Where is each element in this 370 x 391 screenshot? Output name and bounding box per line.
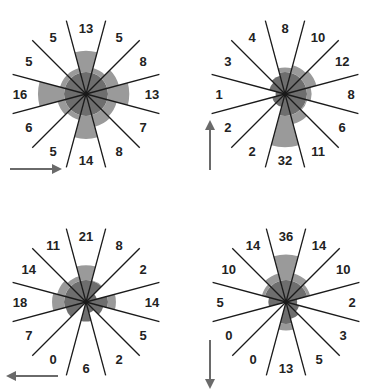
sector-count-label: 4 bbox=[248, 30, 256, 45]
sector-count-label: 8 bbox=[140, 54, 147, 69]
sector-count-label: 8 bbox=[115, 144, 122, 159]
sector-count-label: 8 bbox=[281, 21, 288, 36]
sector-count-label: 0 bbox=[249, 352, 256, 367]
sector-count-label: 36 bbox=[279, 229, 293, 244]
sector-count-label: 11 bbox=[46, 238, 60, 253]
sector-count-label: 3 bbox=[224, 54, 231, 69]
sector-count-label: 13 bbox=[145, 87, 159, 102]
sector-wedge-outer bbox=[279, 323, 294, 330]
sector-count-label: 2 bbox=[224, 120, 231, 135]
sector-count-label: 11 bbox=[311, 144, 325, 159]
sector-count-label: 0 bbox=[49, 352, 56, 367]
sector-boundary-line bbox=[32, 302, 86, 356]
sector-count-label: 14 bbox=[312, 238, 327, 253]
sector-count-label: 6 bbox=[339, 120, 346, 135]
sector-count-label: 10 bbox=[311, 30, 325, 45]
sector-count-label: 5 bbox=[315, 352, 322, 367]
sector-count-label: 10 bbox=[222, 262, 236, 277]
sector-count-label: 10 bbox=[336, 262, 350, 277]
rose-diagrams-figure: 1358137814561655810128611322213421821452… bbox=[0, 0, 370, 391]
sector-count-label: 14 bbox=[246, 238, 261, 253]
sector-count-label: 7 bbox=[25, 328, 32, 343]
sector-boundary-line bbox=[232, 302, 286, 356]
sector-count-label: 5 bbox=[49, 144, 56, 159]
sector-count-label: 2 bbox=[115, 352, 122, 367]
sector-count-label: 16 bbox=[13, 87, 27, 102]
sector-count-label: 5 bbox=[49, 30, 56, 45]
sector-wedge-outer bbox=[306, 87, 311, 101]
sector-count-label: 18 bbox=[13, 295, 27, 310]
sector-count-label: 1 bbox=[215, 87, 222, 102]
sector-count-label: 3 bbox=[340, 328, 347, 343]
rose-panel-bottom-right: 361410235130051014 bbox=[213, 229, 360, 376]
sector-count-label: 5 bbox=[216, 295, 223, 310]
sector-count-label: 14 bbox=[145, 295, 160, 310]
rose-panel-top-left: 1358137814561655 bbox=[13, 21, 160, 168]
sector-count-label: 6 bbox=[82, 361, 89, 376]
rose-panel-top-right: 8101286113222134 bbox=[212, 21, 359, 168]
sector-count-label: 2 bbox=[248, 144, 255, 159]
sector-count-label: 0 bbox=[225, 328, 232, 343]
sector-count-label: 13 bbox=[279, 361, 293, 376]
sector-count-label: 8 bbox=[115, 238, 122, 253]
rose-panel-bottom-left: 21821452607181411 bbox=[13, 229, 160, 376]
sector-count-label: 32 bbox=[278, 153, 292, 168]
sector-count-label: 14 bbox=[79, 153, 94, 168]
sector-count-label: 5 bbox=[140, 328, 147, 343]
sector-count-label: 21 bbox=[79, 229, 93, 244]
sector-boundary-line bbox=[231, 40, 285, 94]
sector-count-label: 5 bbox=[115, 30, 122, 45]
sector-count-label: 2 bbox=[348, 295, 355, 310]
sector-count-label: 5 bbox=[25, 54, 32, 69]
sector-count-label: 7 bbox=[140, 120, 147, 135]
sector-boundary-line bbox=[86, 248, 140, 302]
sector-count-label: 13 bbox=[79, 21, 93, 36]
sector-count-label: 8 bbox=[347, 87, 354, 102]
sector-count-label: 14 bbox=[22, 262, 37, 277]
sector-count-label: 2 bbox=[140, 262, 147, 277]
sector-count-label: 12 bbox=[335, 54, 349, 69]
sector-boundary-line bbox=[86, 302, 140, 356]
sector-count-label: 6 bbox=[25, 120, 32, 135]
sector-wedge-outer bbox=[278, 67, 292, 72]
sector-boundary-line bbox=[286, 302, 340, 356]
